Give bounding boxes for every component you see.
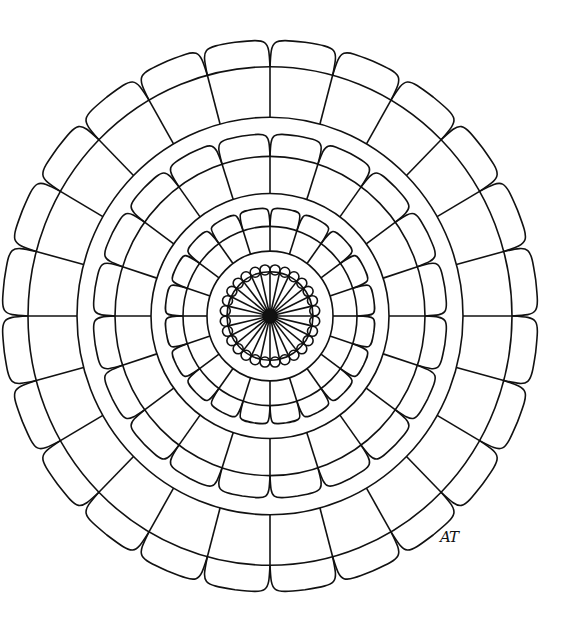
band-spoke bbox=[149, 100, 174, 144]
hub-scallop bbox=[307, 296, 317, 306]
band-spoke bbox=[99, 457, 134, 493]
band-scallop bbox=[141, 53, 207, 100]
hub-scallop bbox=[310, 306, 320, 316]
band-scallop bbox=[86, 492, 149, 550]
band-scallop bbox=[219, 468, 270, 498]
band-spoke bbox=[200, 263, 219, 278]
band-scallop bbox=[361, 410, 409, 459]
mandala-artwork bbox=[0, 0, 573, 621]
band-spoke bbox=[60, 191, 102, 216]
band-scallop bbox=[43, 126, 99, 191]
hub-scallop bbox=[250, 267, 260, 277]
band-spoke bbox=[222, 433, 233, 468]
band-spoke bbox=[187, 336, 210, 344]
band-scallop bbox=[361, 173, 409, 222]
band-spoke bbox=[145, 222, 174, 244]
band-spoke bbox=[60, 415, 102, 440]
band-scallop bbox=[270, 557, 335, 592]
band-scallop bbox=[333, 532, 399, 579]
band-spoke bbox=[437, 415, 479, 440]
band-spoke bbox=[187, 288, 210, 296]
band-scallop bbox=[417, 316, 446, 369]
band-spoke bbox=[330, 288, 353, 296]
band-spoke bbox=[367, 488, 392, 532]
band-spoke bbox=[367, 100, 392, 144]
band-spoke bbox=[366, 388, 395, 410]
band-scallop bbox=[417, 263, 446, 316]
band-scallop bbox=[86, 82, 149, 140]
band-spoke bbox=[437, 191, 479, 216]
band-scallop bbox=[480, 381, 526, 449]
band-spoke bbox=[307, 164, 318, 199]
band-spoke bbox=[99, 140, 134, 176]
band-spoke bbox=[207, 75, 220, 124]
band-spoke bbox=[320, 508, 333, 557]
band-scallop bbox=[131, 173, 179, 222]
band-scallop bbox=[172, 344, 199, 377]
band-spoke bbox=[289, 378, 296, 402]
band-scallop bbox=[441, 126, 497, 191]
band-scallop bbox=[94, 316, 123, 369]
hub-scallop bbox=[220, 316, 230, 326]
band-spoke bbox=[36, 367, 83, 380]
band-spoke bbox=[219, 244, 233, 264]
band-scallop bbox=[211, 215, 243, 243]
band-scallop bbox=[270, 41, 335, 76]
band-scallop bbox=[504, 316, 538, 383]
band-spoke bbox=[222, 164, 233, 199]
band-scallop bbox=[43, 441, 99, 506]
band-spoke bbox=[307, 368, 321, 388]
band-scallop bbox=[15, 183, 61, 251]
band-spoke bbox=[307, 433, 318, 468]
hub-scallop bbox=[270, 357, 280, 367]
band-spoke bbox=[243, 378, 250, 402]
band-scallop bbox=[480, 183, 526, 251]
band-spoke bbox=[207, 508, 220, 557]
hub-center-dot bbox=[263, 309, 277, 323]
hub-scallop bbox=[260, 265, 270, 275]
band-scallop bbox=[141, 532, 207, 579]
band-scallop bbox=[3, 316, 37, 383]
band-spoke bbox=[320, 75, 333, 124]
hub-scallop bbox=[223, 326, 233, 336]
band-spoke bbox=[219, 368, 233, 388]
band-spoke bbox=[36, 251, 83, 264]
band-spoke bbox=[406, 140, 441, 176]
band-scallop bbox=[205, 41, 270, 76]
band-spoke bbox=[456, 251, 503, 264]
band-spoke bbox=[179, 415, 200, 445]
band-spoke bbox=[243, 231, 250, 255]
band-spoke bbox=[383, 354, 417, 365]
band-spoke bbox=[289, 231, 296, 255]
band-spoke bbox=[179, 187, 200, 217]
hub-scallop bbox=[220, 306, 230, 316]
band-spoke bbox=[321, 263, 340, 278]
band-scallop bbox=[3, 249, 37, 316]
hub-scallop bbox=[310, 316, 320, 326]
band-scallop bbox=[15, 381, 61, 449]
hub-scallop bbox=[270, 265, 280, 275]
band-scallop bbox=[297, 388, 329, 416]
band-scallop bbox=[205, 557, 270, 592]
hub-scallop bbox=[280, 355, 290, 365]
band-scallop bbox=[504, 249, 538, 316]
hub-scallop bbox=[307, 326, 317, 336]
band-scallop bbox=[270, 134, 321, 164]
hub-scallop bbox=[260, 357, 270, 367]
band-spoke bbox=[321, 354, 340, 369]
band-spoke bbox=[406, 457, 441, 493]
band-scallop bbox=[219, 134, 270, 164]
band-scallop bbox=[270, 468, 321, 498]
band-spoke bbox=[123, 354, 157, 365]
artist-signature: AT bbox=[440, 528, 458, 546]
band-scallop bbox=[391, 82, 454, 140]
band-spoke bbox=[307, 244, 321, 264]
band-scallop bbox=[94, 263, 123, 316]
band-spoke bbox=[340, 415, 361, 445]
band-spoke bbox=[383, 267, 417, 278]
band-spoke bbox=[200, 354, 219, 369]
band-spoke bbox=[366, 222, 395, 244]
band-spoke bbox=[149, 488, 174, 532]
band-spoke bbox=[340, 187, 361, 217]
hub-scallop bbox=[223, 296, 233, 306]
